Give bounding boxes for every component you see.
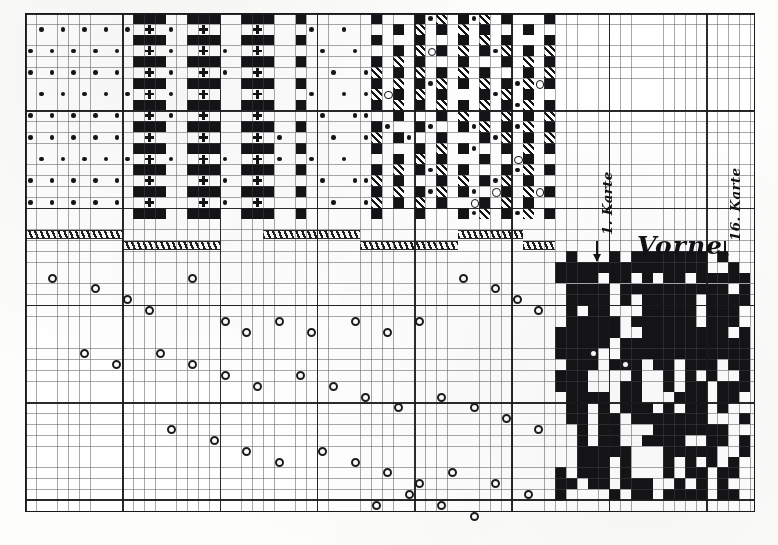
- motif-cross: [252, 24, 263, 35]
- card-cell-solid: [588, 446, 599, 457]
- motif-dot: [469, 143, 480, 154]
- motif-solid: [393, 175, 404, 186]
- motif-solid: [458, 143, 469, 154]
- motif-dot: [425, 186, 436, 197]
- motif-dot: [306, 24, 317, 35]
- motif-solid: [458, 121, 469, 132]
- card-cell-solid: [717, 435, 728, 446]
- motif-solid: [252, 56, 263, 67]
- card-cell-solid: [642, 294, 653, 305]
- card-cell-solid: [696, 392, 707, 403]
- card-cell-solid: [631, 316, 642, 327]
- scatter-point: [448, 468, 457, 477]
- card-cell-solid: [685, 262, 696, 273]
- motif-dot: [25, 132, 36, 143]
- card-cell-solid: [598, 262, 609, 273]
- card-cell-solid: [663, 305, 674, 316]
- card-cell-solid: [728, 305, 739, 316]
- card-cell-solid: [555, 381, 566, 392]
- motif-solid: [501, 121, 512, 132]
- card-cell-solid: [739, 284, 750, 295]
- motif-solid: [544, 13, 555, 24]
- motif-solid: [252, 121, 263, 132]
- motif-hatch: [436, 143, 447, 154]
- motif-dot: [57, 154, 68, 165]
- motif-cross: [252, 89, 263, 100]
- motif-dot: [47, 197, 58, 208]
- scatter-point: [167, 425, 176, 434]
- motif-ring: [425, 45, 436, 56]
- motif-solid: [371, 121, 382, 132]
- motif-cross: [144, 110, 155, 121]
- arrow-last-card-icon: [724, 241, 726, 261]
- motif-hatch: [436, 186, 447, 197]
- card-cell-solid: [674, 316, 685, 327]
- card-cell-solid: [609, 424, 620, 435]
- motif-solid: [544, 164, 555, 175]
- motif-cross: [198, 24, 209, 35]
- motif-solid: [263, 164, 274, 175]
- motif-ring: [382, 89, 393, 100]
- motif-dot: [328, 197, 339, 208]
- card-cell-solid: [555, 370, 566, 381]
- motif-solid: [296, 35, 307, 46]
- card-cell-solid: [631, 381, 642, 392]
- motif-dot: [25, 110, 36, 121]
- motif-hatch: [458, 175, 469, 186]
- motif-dot: [490, 175, 501, 186]
- motif-solid: [187, 186, 198, 197]
- motif-dot: [360, 67, 371, 78]
- card-cell-solid: [685, 489, 696, 500]
- card-cell-solid: [620, 294, 631, 305]
- motif-solid: [209, 121, 220, 132]
- card-cell-solid: [588, 478, 599, 489]
- card-cell-solid: [577, 338, 588, 349]
- scatter-point: [145, 306, 154, 315]
- motif-solid: [501, 35, 512, 46]
- motif-solid: [371, 35, 382, 46]
- motif-cross: [252, 110, 263, 121]
- motif-solid: [371, 143, 382, 154]
- motif-solid: [144, 56, 155, 67]
- motif-solid: [187, 121, 198, 132]
- motif-solid: [479, 132, 490, 143]
- motif-solid: [479, 67, 490, 78]
- motif-solid: [458, 186, 469, 197]
- card-cell-solid: [728, 348, 739, 359]
- card-cell-solid: [707, 359, 718, 370]
- card-cell-solid: [598, 338, 609, 349]
- card-cell-solid: [642, 348, 653, 359]
- motif-solid: [155, 56, 166, 67]
- card-cell-solid: [696, 348, 707, 359]
- motif-dot: [490, 89, 501, 100]
- card-cell-solid: [631, 284, 642, 295]
- card-cell-solid: [685, 316, 696, 327]
- motif-solid: [501, 143, 512, 154]
- motif-solid: [187, 56, 198, 67]
- motif-solid: [133, 35, 144, 46]
- card-cell-solid: [566, 273, 577, 284]
- card-cell-solid: [717, 273, 728, 284]
- motif-dot: [220, 197, 231, 208]
- card-cell-solid: [555, 327, 566, 338]
- motif-solid: [501, 208, 512, 219]
- hatched-bar: [360, 241, 457, 250]
- card-cell-solid: [663, 294, 674, 305]
- motif-solid: [133, 208, 144, 219]
- card-cell-solid: [685, 338, 696, 349]
- motif-cross: [144, 132, 155, 143]
- motif-solid: [155, 143, 166, 154]
- motif-dot: [220, 154, 231, 165]
- motif-hatch: [501, 175, 512, 186]
- motif-solid: [155, 186, 166, 197]
- motif-dot: [350, 110, 361, 121]
- card-cell-solid: [566, 381, 577, 392]
- motif-hatch: [458, 110, 469, 121]
- scatter-point: [275, 317, 284, 326]
- motif-dot: [317, 110, 328, 121]
- motif-solid: [544, 121, 555, 132]
- card-cell-solid: [663, 370, 674, 381]
- motif-cross: [198, 89, 209, 100]
- card-cell-solid: [642, 327, 653, 338]
- card-cell-solid: [653, 294, 664, 305]
